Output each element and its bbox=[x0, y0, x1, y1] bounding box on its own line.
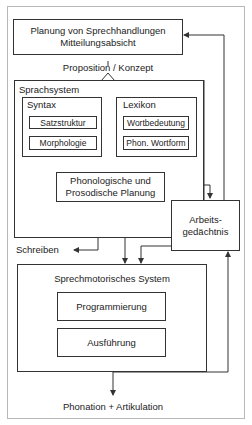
proposition-label: Proposition / Konzept bbox=[40, 62, 176, 74]
motor-item-programmierung: Programmierung bbox=[57, 292, 166, 321]
syntax-title: Syntax bbox=[27, 99, 56, 111]
phonology-box: Phonologische und Prosodische Planung bbox=[56, 172, 165, 202]
lexicon-item-phon-wortform: Phon. Wortform bbox=[123, 136, 189, 150]
syntax-item-morphologie: Morphologie bbox=[29, 136, 97, 150]
working-memory-line1: Arbeits- bbox=[189, 214, 222, 226]
language-system-title: Sprachsystem bbox=[19, 84, 79, 96]
motor-item-ausfuehrung: Ausführung bbox=[57, 328, 166, 357]
output-label: Phonation + Artikulation bbox=[40, 401, 186, 413]
planning-box: Planung von Sprechhandlungen Mitteilungs… bbox=[13, 19, 183, 55]
phonology-line2: Prosodische Planung bbox=[66, 187, 156, 199]
lexicon-title: Lexikon bbox=[123, 99, 156, 111]
motor-system-title: Sprechmotorisches System bbox=[18, 273, 206, 285]
syntax-item-satzstruktur: Satzstruktur bbox=[29, 116, 97, 129]
working-memory-box: Arbeits- gedächtnis bbox=[171, 200, 240, 251]
lexicon-item-wortbedeutung: Wortbedeutung bbox=[123, 116, 189, 130]
planning-line2: Mitteilungsabsicht bbox=[60, 37, 136, 49]
writing-label: Schreiben bbox=[16, 244, 59, 256]
phonology-line1: Phonologische und bbox=[70, 175, 151, 187]
planning-line1: Planung von Sprechhandlungen bbox=[30, 25, 165, 37]
working-memory-line2: gedächtnis bbox=[183, 226, 229, 238]
